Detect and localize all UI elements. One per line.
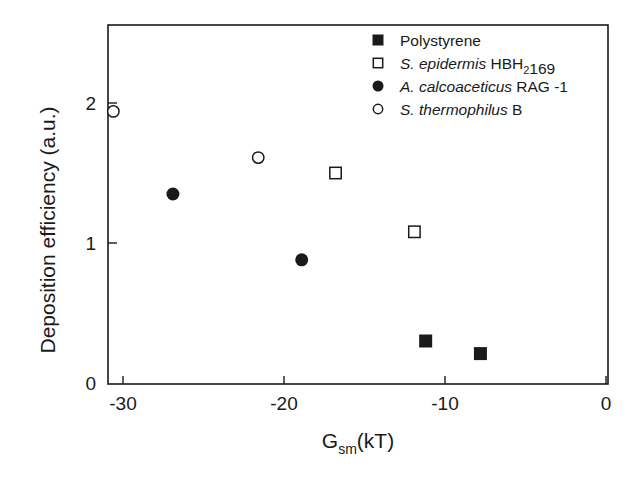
filled-square-marker (419, 335, 432, 348)
x-tick-label: -30 (109, 393, 136, 414)
open-square-marker (330, 167, 341, 178)
filled-circle-marker (295, 253, 308, 266)
x-axis-label: Gsm(kT) (322, 429, 394, 457)
open-circle-marker (108, 106, 119, 117)
legend-entry: S. epidermis HBH2169 (400, 55, 555, 77)
x-axis-ticks: -30-20-100 (109, 376, 611, 414)
legend-entry: A. calcoaceticus RAG -1 (399, 78, 568, 95)
x-tick-label: -20 (270, 393, 297, 414)
y-tick-label: 1 (85, 233, 96, 254)
legend: PolystyreneS. epidermis HBH2169A. calcoa… (373, 32, 568, 118)
open-square-marker (373, 58, 382, 67)
open-circle-marker (253, 152, 264, 163)
filled-circle-marker (373, 81, 384, 92)
scatter-chart: -30-20-100 012 PolystyreneS. epidermis H… (0, 0, 641, 480)
open-circle-marker (373, 104, 382, 113)
y-axis-label: Deposition efficiency (a.u.) (36, 106, 59, 353)
y-tick-label: 2 (85, 93, 96, 114)
legend-entry: S. thermophilus B (400, 101, 522, 118)
data-points (108, 106, 487, 360)
x-tick-label: -10 (431, 393, 458, 414)
filled-square-marker (373, 35, 384, 46)
y-axis-ticks: 012 (85, 93, 117, 394)
y-tick-label: 0 (85, 373, 96, 394)
x-tick-label: 0 (601, 393, 612, 414)
filled-square-marker (474, 347, 487, 360)
filled-circle-marker (166, 188, 179, 201)
legend-entry: Polystyrene (400, 32, 481, 49)
open-square-marker (409, 226, 420, 237)
